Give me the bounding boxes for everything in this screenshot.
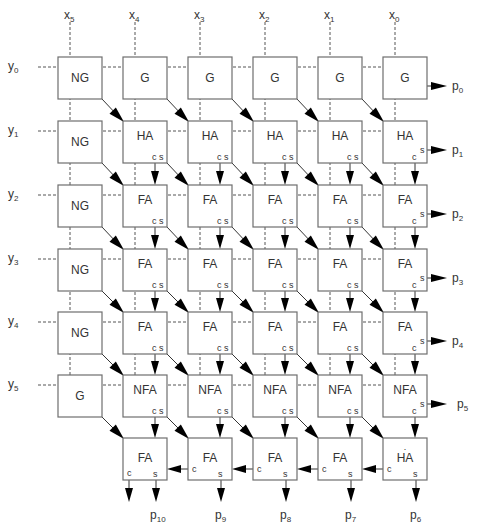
output-label: p1 [452, 143, 464, 159]
sum-port-label: s [289, 406, 294, 416]
output-label-sub: 1 [459, 150, 464, 159]
carry-port-label: c [347, 406, 352, 416]
carry-port-label: c [282, 216, 287, 226]
x-input-label: x1 [324, 8, 335, 24]
sum-port-label: s [289, 280, 294, 290]
arrowhead-icon [281, 361, 289, 375]
cell-label: FA [138, 320, 153, 334]
x-input-label-sub: 2 [265, 15, 270, 24]
y-input-label: y2 [8, 187, 19, 203]
sum-port-label: s [420, 145, 425, 155]
right-outputs: p0p1p2p3p4p5 [427, 79, 469, 413]
y-input-label: y1 [8, 123, 19, 139]
output-label-sub: 8 [287, 515, 292, 524]
sum-port-label: s [354, 152, 359, 162]
carry-port-label: c [347, 280, 352, 290]
cell-fa: FAcs [188, 438, 232, 480]
cell-ng: NG [58, 312, 102, 354]
arrowhead-icon [411, 235, 419, 249]
sum-port-label: s [354, 280, 359, 290]
sum-port-label: s [159, 406, 164, 416]
output-label: p4 [452, 334, 464, 350]
cell-fa: FAcs [253, 249, 297, 291]
cell-fa: FAcs [253, 312, 297, 354]
carry-port-label: c [347, 343, 352, 353]
cell-fa: FAcs [123, 249, 167, 291]
arrowhead-icon [412, 488, 420, 502]
carry-port-label: c [347, 152, 352, 162]
arrowhead-icon [281, 235, 289, 249]
carry-port-label: c [127, 468, 132, 478]
cell-label: HA [267, 129, 284, 143]
cell-ha: HAcs [123, 121, 167, 163]
cell-fa: FAcs [188, 249, 232, 291]
cell-label: FA [333, 257, 348, 271]
carry-port-label: c [217, 280, 222, 290]
cell-label: NFA [263, 383, 286, 397]
cell-fa: FAcs [123, 185, 167, 227]
cell-label: NG [71, 135, 89, 149]
cell-g: G [58, 375, 102, 417]
y-input-label-sub: 2 [14, 194, 19, 203]
arrowhead-icon [411, 171, 419, 185]
sum-port-label: s [413, 469, 418, 479]
y-input-labels: y0y1y2y3y4y5 [8, 59, 19, 393]
x-input-labels: x5x4x3x2x1x0 [64, 8, 400, 24]
arrowhead-icon [152, 488, 160, 502]
cell-fa: FAcs [383, 312, 427, 354]
sum-port-label: s [159, 343, 164, 353]
output-label: p0 [452, 79, 464, 95]
cell-nfa: NFAcs [383, 375, 427, 417]
output-label-sub: 10 [157, 515, 166, 524]
arrowhead-icon [431, 337, 447, 345]
cell-ng: NG [58, 121, 102, 163]
arrowhead-icon [151, 298, 159, 312]
output-label-sub: 0 [459, 86, 464, 95]
output-label: p6 [410, 508, 422, 524]
cell-label: NG [71, 263, 89, 277]
y-input-label-sub: 0 [14, 66, 19, 75]
y-input-label: y4 [8, 314, 19, 330]
cell-g: G [383, 57, 427, 99]
carry-port-label: c [387, 464, 392, 474]
carry-port-label: c [412, 406, 417, 416]
cell-label: FA [203, 193, 218, 207]
cell-g: G [188, 57, 232, 99]
arrowhead-icon [346, 424, 354, 438]
arrowhead-icon [431, 274, 447, 282]
carry-port-label: c [152, 216, 157, 226]
cell-label: NG [71, 326, 89, 340]
arrowhead-icon [216, 298, 224, 312]
cell-label: HA [202, 129, 219, 143]
cell-label: G [400, 71, 409, 85]
cell-g: G [123, 57, 167, 99]
arrowhead-icon [431, 82, 447, 90]
cell-label: NFA [393, 383, 416, 397]
cell-label: FA [268, 193, 283, 207]
cell-label: FA [268, 451, 283, 465]
sum-port-label: s [348, 469, 353, 479]
arrowhead-icon [282, 488, 290, 502]
y-input-label-sub: 1 [14, 130, 19, 139]
cell-label: NFA [328, 383, 351, 397]
sum-port-label: s [354, 406, 359, 416]
arrowhead-icon [216, 235, 224, 249]
sum-port-label: s [159, 280, 164, 290]
carry-port-label: c [217, 152, 222, 162]
cell-ha: HAcs [188, 121, 232, 163]
cell-nfa: NFAcs [123, 375, 167, 417]
cell-fa: FAcs [318, 249, 362, 291]
cell-label: FA [268, 257, 283, 271]
sum-port-label: s [159, 152, 164, 162]
x-input-label: x5 [64, 8, 75, 24]
sum-port-label: s [420, 209, 425, 219]
arrowhead-icon [281, 424, 289, 438]
x-input-label: x4 [129, 8, 140, 24]
arrowhead-icon [346, 171, 354, 185]
cell-label: FA [203, 257, 218, 271]
cell-fa: FAcs [123, 312, 167, 354]
cell-label: FA [138, 257, 153, 271]
cell-label: HA [137, 129, 154, 143]
output-label-sub: 4 [459, 341, 464, 350]
cell-ha: HAcs [253, 121, 297, 163]
